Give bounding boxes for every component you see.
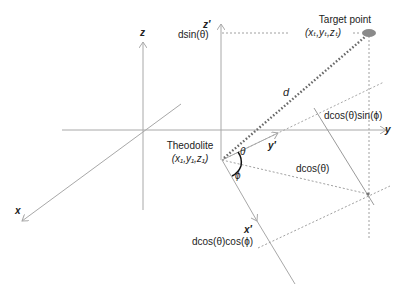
theta-label: θ (240, 146, 245, 157)
y-prime-perpendicular (314, 108, 374, 205)
dcos-theta-cos-phi-label: dcos(θ)cos(ϕ) (192, 236, 253, 247)
target-point-marker (362, 29, 376, 37)
distance-d-line (224, 36, 366, 158)
x-axis-label: x (15, 205, 21, 216)
x-axis (22, 104, 181, 221)
dcos-theta-label: dcos(θ) (296, 163, 329, 174)
dcos-theta-line (222, 160, 368, 194)
target-point-coords: (xₜ,yₜ,zₜ) (293, 27, 353, 38)
phi-label: ϕ (235, 170, 241, 181)
x-prime-parallel-line (258, 186, 390, 248)
projected-point-marker (366, 192, 369, 195)
x-prime-axis-extension (257, 221, 295, 284)
x-prime-axis-label: x′ (244, 224, 252, 235)
theodolite-label: Theodolite (160, 140, 220, 151)
y-prime-axis-label: y′ (268, 140, 276, 151)
dsin-theta-label: dsin(θ) (178, 29, 209, 40)
distance-d-label: d (283, 87, 289, 98)
target-point-label: Target point (308, 14, 382, 25)
theodolite-coords: (x₁,y₁,z₁) (160, 153, 220, 164)
y-axis-label: y (385, 124, 391, 135)
dcos-theta-sin-phi-label: dcos(θ)sin(ϕ) (324, 110, 382, 121)
z-axis-label: z (140, 27, 145, 38)
